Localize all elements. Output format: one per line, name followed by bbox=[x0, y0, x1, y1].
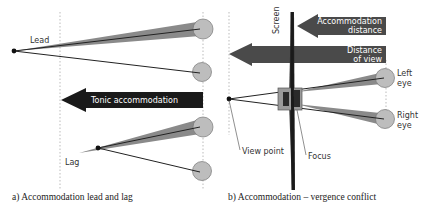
view-point-leader bbox=[229, 100, 240, 150]
accommodation-distance-label-2: distance bbox=[348, 26, 382, 35]
right-eye-cone bbox=[296, 104, 382, 125]
panel-b: Accommodation distance Distance of view … bbox=[227, 6, 418, 203]
right-eye-icon bbox=[376, 110, 395, 129]
left-eye-label-2: eye bbox=[397, 79, 412, 88]
view-point-label: View point bbox=[242, 147, 284, 156]
distance-of-view-label-2: of view bbox=[353, 55, 382, 64]
right-eye-line bbox=[229, 99, 384, 119]
right-eye-label-1: Right bbox=[397, 111, 418, 120]
left-eye-cone bbox=[296, 73, 382, 92]
diagram-canvas: Lead Tonic accommodation Lag a) Accommod… bbox=[0, 0, 429, 208]
lag-line-bottom bbox=[98, 148, 200, 172]
focus-leader bbox=[297, 110, 306, 155]
distance-of-view-label-1: Distance bbox=[347, 46, 382, 55]
lead-focus-point bbox=[12, 49, 17, 54]
lead-label: Lead bbox=[30, 36, 49, 45]
left-eye-label-1: Left bbox=[397, 69, 412, 78]
screen-label: Screen bbox=[272, 6, 281, 34]
screen-edge bbox=[292, 12, 293, 190]
tonic-accommodation-label: Tonic accommodation bbox=[90, 96, 178, 105]
accommodation-distance-label-1: Accommodation bbox=[317, 17, 382, 26]
right-eye-label-2: eye bbox=[397, 121, 412, 130]
caption-b: b) Accommodation – vergence conflict bbox=[228, 192, 376, 203]
focus-inner-right bbox=[294, 90, 300, 107]
focus-inner-left bbox=[283, 92, 289, 106]
focus-label: Focus bbox=[308, 152, 331, 161]
caption-a: a) Accommodation lead and lag bbox=[12, 192, 133, 203]
panel-a: Lead Tonic accommodation Lag a) Accommod… bbox=[12, 12, 213, 203]
eye-icon-lag-top bbox=[193, 117, 213, 137]
lag-line-top bbox=[98, 127, 200, 148]
lead-line-bottom bbox=[14, 51, 200, 73]
left-eye-icon bbox=[376, 69, 395, 88]
left-eye-line bbox=[229, 78, 384, 99]
lag-label: Lag bbox=[65, 158, 79, 167]
lag-focus-point bbox=[96, 146, 101, 151]
